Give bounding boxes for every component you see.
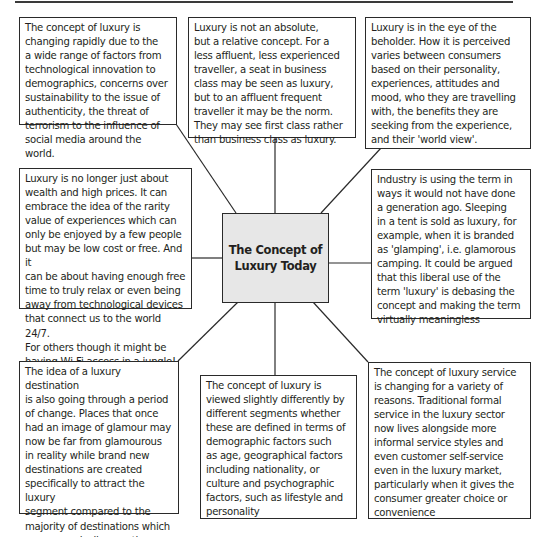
concept-box-top-left: The concept of luxury is changing rapidl… [19,17,177,125]
central-topic-box: The Concept of Luxury Today [222,213,329,303]
concept-box-bottom-left: The idea of a luxury destination is also… [19,361,179,514]
concept-box-middle-left: Luxury is no longer just about wealth an… [19,168,192,309]
concept-box-top-center: Luxury is not an absolute, but a relativ… [188,17,356,138]
connector-bottom-left [178,302,238,361]
central-topic-title: The Concept of Luxury Today [229,242,322,274]
concept-box-top-right: Luxury is in the eye of the beholder. Ho… [365,17,531,149]
concept-box-bottom-center: The concept of luxury is viewed slightly… [200,375,357,519]
concept-box-bottom-right: The concept of luxury service is changin… [368,362,531,519]
connector-bottom-right [313,302,368,362]
concept-box-middle-right: Industry is using the term in ways it wo… [371,169,531,319]
